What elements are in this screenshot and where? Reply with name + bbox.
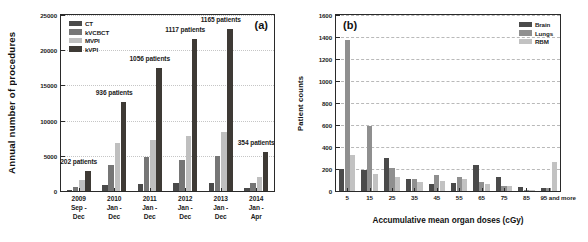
x-axis-tick-mark (347, 188, 348, 192)
bar-lungs (345, 40, 350, 191)
x-axis-tick-mark (414, 188, 415, 192)
bar-rbm (395, 177, 400, 191)
x-axis-tick-label: 55 (451, 191, 468, 201)
panel-b-plot-area: (b) BrainLungsRBM 0200400600800100012001… (335, 14, 561, 192)
bar-brain (429, 184, 434, 191)
panel-a-ylabel: Annual number of procedures (6, 10, 17, 196)
bar-kvpi (121, 102, 127, 191)
bar-group: 45 (429, 15, 446, 191)
bar-group: 65 (473, 15, 490, 191)
y-axis-tick-label: 0 (54, 188, 61, 195)
legend-swatch-icon (519, 30, 532, 36)
legend-item-kvcbct: kVCBCT (69, 29, 109, 36)
x-axis-tick-label: 65 (473, 191, 490, 201)
x-axis-tick-label: 2009Sep - Dec (67, 191, 91, 221)
y-axis-tick-label: 0 (329, 188, 336, 195)
x-axis-tick-label: 25 (384, 191, 401, 201)
y-axis-tick-label: 400 (322, 144, 336, 151)
y-axis-tick-mark (61, 50, 65, 51)
legend-item-ct: CT (69, 20, 109, 27)
bar-group-annotation: 202 patients (60, 158, 97, 165)
bar-group: 1056 patients2011Jan - Dec (138, 15, 162, 191)
x-axis-tick-mark (221, 188, 222, 192)
y-axis-tick-label: 200 (322, 166, 336, 173)
legend-label: kVPI (85, 46, 98, 53)
x-axis-tick-label: 35 (406, 191, 423, 201)
bar-group-annotation: 1117 patients (165, 26, 205, 33)
bar-kvpi (263, 152, 269, 191)
y-axis-tick-label: 1400 (319, 34, 336, 41)
bar-rbm (417, 182, 422, 191)
bar-rbm (462, 179, 467, 191)
bar-brain (496, 177, 501, 191)
x-axis-tick-label: 2010Jan - Dec (102, 191, 126, 221)
legend-swatch-icon (519, 22, 532, 28)
panel-b-legend: BrainLungsRBM (519, 21, 553, 45)
x-axis-tick-mark (114, 188, 115, 192)
gridline (61, 85, 274, 86)
x-axis-tick-mark (459, 188, 460, 192)
bar-rbm (440, 181, 445, 191)
y-axis-tick-label: 25000 (40, 12, 61, 19)
legend-swatch-icon (519, 39, 532, 45)
x-axis-tick-mark (549, 188, 550, 192)
bar-kvpi (227, 29, 233, 191)
legend-swatch-icon (69, 21, 82, 27)
y-axis-tick-label: 600 (322, 122, 336, 129)
bar-rbm (373, 174, 378, 191)
bar-group: 354 patients2014Jan - Apr (244, 15, 268, 191)
y-axis-tick-mark (61, 85, 65, 86)
legend-swatch-icon (69, 38, 82, 44)
bar-group: 75 (496, 15, 513, 191)
legend-item-brain: Brain (519, 21, 553, 28)
x-axis-tick-mark (370, 188, 371, 192)
legend-label: Brain (535, 21, 550, 28)
bar-group: 5 (339, 15, 356, 191)
x-axis-tick-label: 75 (496, 191, 513, 201)
bar-ct (173, 183, 179, 191)
bar-kvpi (85, 171, 91, 191)
y-axis-tick-mark (61, 121, 65, 122)
bar-group-annotation: 354 patients (238, 139, 275, 146)
x-axis-tick-mark (526, 188, 527, 192)
bar-group: 15 (361, 15, 378, 191)
x-axis-tick-label: 2012Jan - Dec (173, 191, 197, 221)
x-axis-tick-label: 2014Jan - Apr (244, 191, 268, 221)
bar-kvcbct (179, 160, 185, 191)
bar-kvcbct (108, 165, 114, 191)
bar-brain (473, 165, 478, 191)
bar-brain (451, 183, 456, 191)
bar-rbm (350, 155, 355, 191)
x-axis-tick-mark (504, 188, 505, 192)
bar-mvpi (150, 140, 156, 191)
legend-label: MVPI (85, 37, 100, 44)
x-axis-tick-label: 85 (518, 191, 535, 201)
x-axis-tick-label: 2013Jan - Dec (209, 191, 233, 221)
y-axis-tick-label: 15000 (40, 82, 61, 89)
bar-mvpi (79, 180, 85, 191)
x-axis-tick-mark (79, 188, 80, 192)
bar-group: 55 (451, 15, 468, 191)
gridline (61, 156, 274, 157)
bar-brain (339, 169, 344, 191)
legend-swatch-icon (69, 46, 82, 52)
bar-mvpi (115, 143, 121, 191)
bar-group-annotation: 1165 patients (201, 16, 241, 23)
bar-kvcbct (215, 156, 221, 191)
bar-kvpi (156, 68, 162, 191)
y-axis-tick-label: 10000 (40, 117, 61, 124)
x-axis-tick-mark (392, 188, 393, 192)
bar-mvpi (257, 177, 263, 191)
y-axis-tick-mark (61, 156, 65, 157)
bar-brain (406, 179, 411, 191)
panel-b-ylabel: Patient counts (296, 18, 305, 188)
x-axis-tick-label: 15 (361, 191, 378, 201)
bar-group: 1117 patients2012Jan - Dec (173, 15, 197, 191)
bar-group: 25 (384, 15, 401, 191)
bar-mvpi (221, 132, 227, 191)
x-axis-tick-label: 2011Jan - Dec (138, 191, 162, 221)
bar-brain (384, 158, 389, 191)
legend-item-kvpi: kVPI (69, 46, 109, 53)
legend-label: RBM (535, 38, 549, 45)
bar-kvcbct (250, 183, 256, 191)
